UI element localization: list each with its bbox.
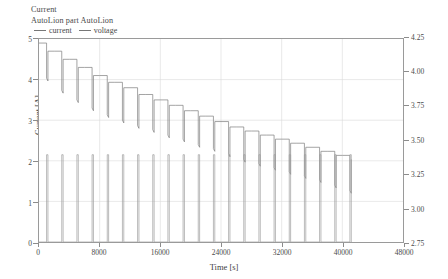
legend-item-current[interactable]: current (34, 26, 72, 35)
y-left-tick-4: 4 (18, 76, 32, 85)
x-tickmark-16000 (160, 243, 161, 247)
x-tickmark-0 (38, 243, 39, 247)
chart-subtitle: AutoLion part AutoLion (31, 15, 113, 26)
y-right-tick-375: 3.75 (411, 101, 437, 110)
current-series-line (39, 155, 351, 242)
y-right-tick-325: 3.25 (411, 170, 437, 179)
chart-screenshot: Current AutoLion part AutoLion current v… (0, 0, 448, 279)
x-tickmark-40000 (343, 243, 344, 247)
x-tickmark-48000 (404, 243, 405, 247)
legend-label-voltage: voltage (94, 26, 118, 35)
x-axis-label: Time [s] (0, 262, 448, 272)
legend-line-icon-voltage (79, 30, 91, 31)
plot-area (38, 38, 404, 243)
y-right-tickmark-325 (404, 174, 409, 175)
y-right-tickmark-300 (404, 209, 409, 210)
x-tick-16000: 16000 (140, 248, 180, 257)
x-tick-40000: 40000 (323, 248, 363, 257)
y-right-tick-400: 4.00 (411, 67, 437, 76)
y-right-tick-425: 4.25 (411, 33, 437, 42)
x-tickmark-32000 (282, 243, 283, 247)
y-left-tick-0: 0 (18, 239, 32, 248)
legend-label-current: current (49, 26, 72, 35)
x-tick-48000: 48000 (384, 248, 424, 257)
chart-title-block: Current AutoLion part AutoLion (31, 4, 113, 26)
y-left-tick-5: 5 (18, 35, 32, 44)
plot-canvas (39, 39, 403, 242)
x-tickmark-8000 (99, 243, 100, 247)
x-tick-8000: 8000 (79, 248, 119, 257)
y-right-tickmark-400 (404, 71, 409, 72)
y-right-tick-350: 3.50 (411, 136, 437, 145)
y-right-tick-300: 3.00 (411, 205, 437, 214)
y-right-tickmark-350 (404, 140, 409, 141)
x-tick-32000: 32000 (262, 248, 302, 257)
legend-item-voltage[interactable]: voltage (79, 26, 118, 35)
y-left-tick-3: 3 (18, 117, 32, 126)
y-right-tickmark-425 (404, 37, 409, 38)
y-right-tickmark-375 (404, 105, 409, 106)
y-left-tick-1: 1 (18, 199, 32, 208)
x-tickmark-24000 (221, 243, 222, 247)
chart-title: Current (31, 4, 113, 15)
x-tick-24000: 24000 (201, 248, 241, 257)
x-tick-0: 0 (18, 248, 58, 257)
chart-legend: current voltage (34, 26, 117, 35)
y-left-tick-2: 2 (18, 158, 32, 167)
y-right-tick-275: 2.75 (411, 239, 437, 248)
legend-line-icon-current (34, 30, 46, 31)
